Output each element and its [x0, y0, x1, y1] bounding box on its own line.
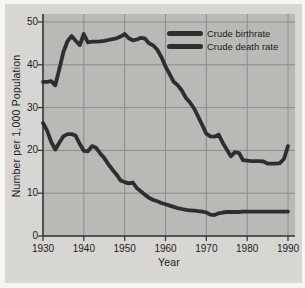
birthrate-line-swatch	[167, 31, 203, 36]
legend: Crude birthrate Crude death rate	[167, 27, 278, 53]
legend-item-birthrate: Crude birthrate	[167, 27, 278, 40]
x-tick-label: 1950	[108, 243, 142, 255]
x-tick-label: 1930	[26, 243, 60, 255]
legend-item-death-rate: Crude death rate	[167, 40, 278, 53]
x-tick-label: 1940	[67, 243, 101, 255]
figure: 01020304050 1930194019501960197019801990…	[0, 0, 305, 288]
x-tick-label: 1990	[271, 243, 305, 255]
legend-label-death-rate: Crude death rate	[207, 41, 278, 52]
x-axis-title: Year	[43, 256, 295, 268]
death-rate-line-swatch	[167, 44, 203, 49]
legend-label-birthrate: Crude birthrate	[207, 28, 270, 39]
x-tick-label: 1970	[189, 243, 223, 255]
x-tick-label: 1960	[149, 243, 183, 255]
y-axis-title: Number per 1,000 Population	[10, 13, 22, 239]
x-tick-label: 1980	[230, 243, 264, 255]
